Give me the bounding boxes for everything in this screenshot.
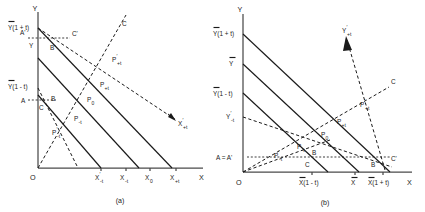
panel-a-curve-label-b-lower: B xyxy=(51,95,55,102)
panel-b-ytick-y-hi: Y(1 + t) xyxy=(213,28,234,39)
panel-b-xtick-x-hi: X(1 + t) xyxy=(368,178,389,188)
panel-b-caption: (b) xyxy=(321,199,330,207)
panel-b-budget-line-lo xyxy=(243,93,328,172)
panel-b-curve-label-c-right-prime: C' xyxy=(391,155,397,162)
panel-a-xtick-x0-sub: 0 xyxy=(150,178,153,184)
panel-a-curve-c-prime xyxy=(38,28,170,116)
panel-a-ytick-a-prime-text: A' xyxy=(20,29,25,36)
panel-a-point-p-plus: P +t xyxy=(100,81,109,91)
panel-b-ray-a-construction xyxy=(243,140,330,172)
panel-a-curve-label-c-lower: C xyxy=(39,104,44,111)
panel-b-arrowhead-y-plus-prime xyxy=(343,36,352,51)
panel-b-point-p-plus-prime: P ′ +t xyxy=(360,98,370,111)
panel-b-ytick-y-lo: Y(1 - t) xyxy=(213,88,233,99)
panel-b-expansion-path-c xyxy=(243,87,389,172)
panel-b-xtick-x-bar: X xyxy=(351,178,358,187)
panel-b-point-p-minus-prime-mark: ′ xyxy=(279,149,280,155)
panel-a-point-p-zero-sub: 0 xyxy=(92,100,95,106)
panel-a-curve-label-x-plus-prime-mark: ′ xyxy=(183,117,184,123)
panel-b-budget-line-mid xyxy=(243,64,359,172)
panel-b-xtick-x-lo-text: X(1 - t) xyxy=(299,179,319,187)
panel-b-xtick-x-bar-text: X xyxy=(351,179,356,186)
panel-b-curve-y-minus-prime xyxy=(243,117,392,167)
panel-a-xtick-xp: X +t xyxy=(170,174,180,184)
panel-a-xtick-xm: X -t xyxy=(120,174,129,184)
panel-a-ytick-y-lo-text: Y(1 - t) xyxy=(8,83,28,91)
panel-a-ytick-a-text: A xyxy=(21,97,26,104)
panel-a-xtick-x0: X 0 xyxy=(145,174,153,184)
panel-a-point-p-minus-prime: P ′ -t xyxy=(52,126,61,139)
panel-b-curve-label-c-mid: C xyxy=(305,161,310,168)
panel-a-point-p-plus-prime-mark: ′ xyxy=(117,53,118,59)
figure-container: Y X O Y(1 + t) A' Y Y(1 - t) A X ′ -t X … xyxy=(0,0,425,212)
panel-a-point-p-zero: P 0 xyxy=(87,96,95,106)
panel-b-ytick-y-minus-prime: Y ′ -t xyxy=(226,110,235,123)
panel-b-y-axis-label: Y xyxy=(238,5,243,14)
panel-b-xtick-x-lo: X(1 - t) xyxy=(299,178,319,188)
panel-a-caption: (a) xyxy=(116,197,125,205)
panel-a-xtick-xm-prime-sub: -t xyxy=(100,178,104,184)
panel-b-point-p-zero-sub: 0 xyxy=(326,135,329,141)
panel-a-point-p-plus-prime: P ′ +t xyxy=(112,53,122,66)
panel-a-ytick-y-lo: Y(1 - t) xyxy=(8,81,28,92)
panel-b-curve-label-b-right: B xyxy=(371,161,375,168)
panel-b-point-p-plus-prime-mark: ′ xyxy=(365,98,366,104)
panel-b-point-p-plus: P +t xyxy=(337,118,346,128)
panel-a-budget-line-plus xyxy=(38,28,172,168)
panel-a-curve-label-x-plus-prime: X ′ +t xyxy=(178,117,188,130)
panel-b-origin-label: O xyxy=(236,178,242,187)
panel-a: Y X O Y(1 + t) A' Y Y(1 - t) A X ′ -t X … xyxy=(8,4,204,205)
panel-a-arrowhead-x-plus-prime xyxy=(168,113,176,121)
panel-a-curve-label-c-upper: C xyxy=(122,20,127,27)
panel-b-ytick-y-bar: Y xyxy=(229,58,236,68)
panel-b-xtick-x-hi-text: X(1 + t) xyxy=(368,179,389,187)
panel-b-budget-line-hi xyxy=(243,34,390,172)
panel-a-x-axis-label: X xyxy=(199,173,204,182)
panel-a-xtick-xm-sub: -t xyxy=(125,178,129,184)
panel-a-point-p-minus: P -t xyxy=(74,115,82,125)
panel-b-curve-label-y-plus-prime: Y ′ +t xyxy=(342,24,352,37)
panel-b-curve-label-b-mid: B xyxy=(312,149,316,156)
panel-b-ytick-y-lo-text: Y(1 - t) xyxy=(213,90,233,98)
panel-b-ytick-a-equals-a-prime-text: A = A' xyxy=(216,154,232,161)
panel-b-curve-label-y-plus-prime-sub: +t xyxy=(347,31,352,37)
panel-b-ytick-y-hi-text: Y(1 + t) xyxy=(213,30,234,38)
panel-b-ytick-y-minus-prime-mark: ′ xyxy=(231,110,232,116)
panel-a-xtick-xm-prime: X ′ -t xyxy=(95,171,104,184)
panel-a-curve-label-x-plus-prime-sub: +t xyxy=(183,124,188,130)
panel-b-point-p-zero: P 0 xyxy=(321,131,329,141)
panel-a-curve-label-c-upper-prime: C' xyxy=(72,30,78,37)
panel-b-x-axis-label: X xyxy=(407,178,412,187)
panel-a-xtick-xp-sub: +t xyxy=(175,178,180,184)
panel-a-ytick-y-hi-text: Y(1 + t) xyxy=(8,24,29,32)
panel-a-point-p-minus-sub: -t xyxy=(79,119,83,125)
panel-b-point-p-plus-sub: +t xyxy=(342,122,347,128)
panel-a-ytick-y-mid-text: Y xyxy=(29,42,34,49)
panel-b-ytick-y-minus-prime-sub: -t xyxy=(231,117,235,123)
panel-b-ytick-y-bar-text: Y xyxy=(229,60,234,67)
panel-a-curve-label-b-prime: B' xyxy=(50,44,55,51)
panel-a-point-p-plus-prime-sub: +t xyxy=(117,60,122,66)
panel-a-point-p-minus-prime-mark: ′ xyxy=(57,126,58,132)
panel-b-curve-label-c-right: C xyxy=(391,78,396,85)
panel-b-point-p-plus-prime-sub: +t xyxy=(365,105,370,111)
panel-a-point-p-minus-prime-sub: -t xyxy=(57,133,61,139)
panel-a-xtick-xm-prime-mark: ′ xyxy=(100,171,101,177)
panel-a-origin-label: O xyxy=(30,173,36,182)
economics-diagram: Y X O Y(1 + t) A' Y Y(1 - t) A X ′ -t X … xyxy=(0,0,425,212)
panel-b: Y X O Y(1 + t) Y Y(1 - t) Y ′ -t A = A' … xyxy=(213,5,412,207)
panel-a-y-axis-label: Y xyxy=(33,4,38,13)
panel-a-ytick-y-hi: Y(1 + t) xyxy=(8,22,29,33)
panel-a-point-p-plus-sub: +t xyxy=(105,85,110,91)
panel-b-curve-label-y-plus-prime-mark: ′ xyxy=(347,24,348,30)
